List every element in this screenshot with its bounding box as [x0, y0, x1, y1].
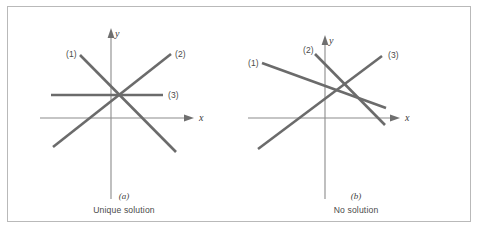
- y-axis-b: [322, 35, 329, 199]
- y-axis-a: [108, 28, 115, 199]
- equation-line-1-b: [262, 63, 386, 108]
- equation-line-1-a: [80, 55, 176, 152]
- panel-tag-b: (b): [240, 192, 472, 201]
- y-axis-label-b: y: [329, 36, 333, 46]
- x-axis-label-a: x: [199, 113, 203, 123]
- x-axis-a: [40, 115, 194, 122]
- line-label-2-b: (2): [303, 46, 314, 55]
- y-axis-label-a: y: [115, 29, 119, 39]
- figure-frame: y x (1) (2) (3) (a) Unique solution: [7, 6, 471, 222]
- line-label-2-a: (2): [175, 50, 186, 59]
- panel-tag-a: (a): [8, 192, 240, 201]
- panel-unique-solution: y x (1) (2) (3) (a) Unique solution: [8, 7, 240, 223]
- equation-line-2-a: [53, 54, 171, 147]
- figure-root: y x (1) (2) (3) (a) Unique solution: [0, 0, 480, 232]
- line-label-1-b: (1): [248, 59, 259, 68]
- x-axis-label-b: x: [405, 113, 409, 123]
- panel-no-solution: y x (1) (2) (3) (b) No solution: [240, 7, 472, 223]
- line-label-1-a: (1): [66, 50, 77, 59]
- panel-caption-b: No solution: [240, 206, 472, 215]
- line-label-3-b: (3): [388, 51, 399, 60]
- panel-caption-a: Unique solution: [8, 206, 240, 215]
- line-label-3-a: (3): [168, 91, 179, 100]
